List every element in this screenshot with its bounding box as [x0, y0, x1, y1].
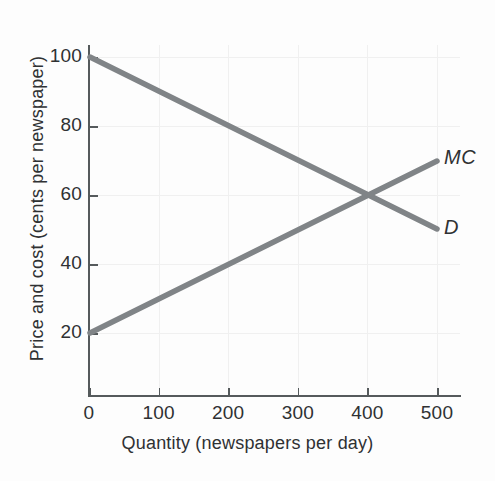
- y-axis-tick: [89, 333, 98, 335]
- chart-figure: 100 80 60 40 20 0 100 200 300 400 500 MC…: [0, 0, 495, 481]
- series-label-D: D: [444, 216, 459, 239]
- x-axis-tick-label: 200: [198, 402, 258, 424]
- x-axis-tick: [89, 388, 91, 397]
- x-axis-tick: [159, 388, 161, 397]
- gridline-horizontal: [89, 333, 460, 334]
- y-axis-tick: [89, 264, 98, 266]
- gridline-horizontal: [89, 57, 460, 58]
- x-axis-tick: [298, 388, 300, 397]
- series-label-MC: MC: [444, 146, 476, 169]
- y-axis-tick: [89, 195, 98, 197]
- x-axis-tick: [367, 388, 369, 397]
- y-axis-title: Price and cost (cents per newspaper): [27, 24, 48, 394]
- plot-area: [89, 45, 460, 396]
- gridline-vertical: [228, 45, 229, 396]
- x-axis-line: [88, 395, 461, 397]
- gridline-horizontal: [89, 195, 460, 196]
- y-axis-tick: [89, 126, 98, 128]
- gridline-vertical: [298, 45, 299, 396]
- gridline-vertical: [367, 45, 368, 396]
- x-axis-tick-label: 0: [59, 402, 119, 424]
- gridline-vertical: [159, 45, 160, 396]
- gridline-vertical: [437, 45, 438, 396]
- gridline-horizontal: [89, 126, 460, 127]
- x-axis-tick-label: 500: [407, 402, 467, 424]
- x-axis-tick-label: 100: [129, 402, 189, 424]
- gridline-horizontal: [89, 264, 460, 265]
- x-axis-tick: [228, 388, 230, 397]
- y-axis-line: [88, 45, 90, 397]
- y-axis-tick: [89, 57, 98, 59]
- x-axis-tick: [437, 388, 439, 397]
- x-axis-title: Quantity (newspapers per day): [0, 433, 495, 454]
- x-axis-tick-label: 400: [337, 402, 397, 424]
- x-axis-tick-label: 300: [268, 402, 328, 424]
